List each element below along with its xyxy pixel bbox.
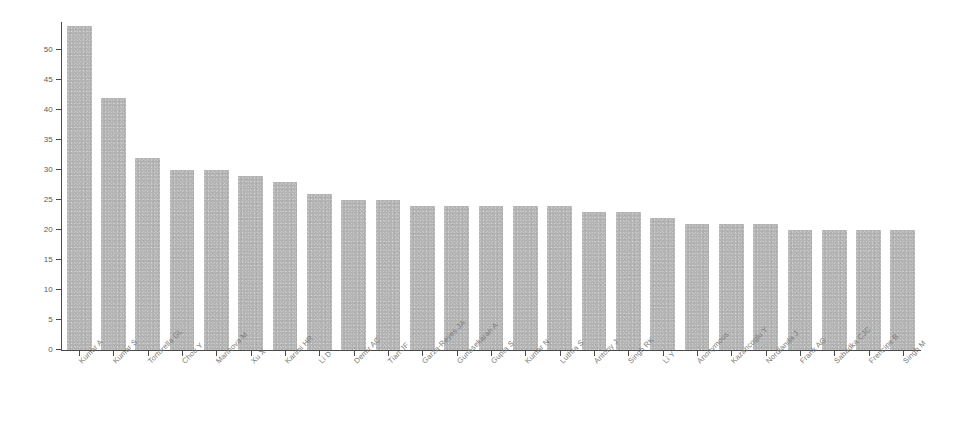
bar (307, 194, 332, 350)
bar (204, 170, 229, 350)
bar (135, 158, 160, 350)
bar (101, 98, 126, 350)
bar (513, 206, 538, 350)
bar (273, 182, 298, 350)
bar (650, 218, 675, 350)
bar-chart: 05101520253035404550 Kumar AKumar STorto… (0, 0, 955, 425)
bar (410, 206, 435, 350)
bar (341, 200, 366, 350)
bars-layer (0, 0, 955, 425)
bar (616, 212, 641, 350)
bar (376, 200, 401, 350)
bar (238, 176, 263, 350)
bar (67, 26, 92, 350)
bar (685, 224, 710, 350)
bar (822, 230, 847, 350)
bar (582, 212, 607, 350)
bar (170, 170, 195, 350)
bar (547, 206, 572, 350)
